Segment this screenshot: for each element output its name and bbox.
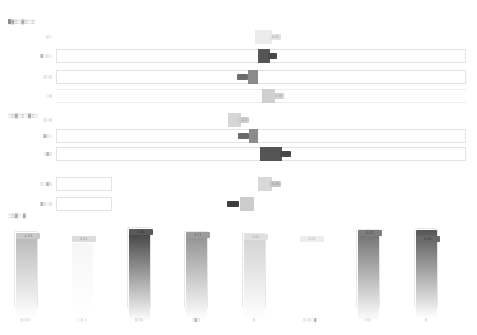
slider-value-badge: 0.03 <box>270 181 281 187</box>
vertical-bar-fill <box>129 229 150 321</box>
vertical-bar-value-badge: 0.17 <box>186 232 210 238</box>
vertical-bar-value-badge: 0.36 <box>129 229 153 235</box>
vertical-bar[interactable]: 0.17░▓▒ <box>184 0 208 335</box>
vertical-bar-fill <box>416 230 437 318</box>
vertical-bar-label: ▒░▒ <box>119 318 159 322</box>
vertical-bar-fill <box>358 231 379 321</box>
vertical-bar-label: ▒ <box>234 318 274 322</box>
vertical-bar[interactable]: 0.28▒ <box>414 0 438 335</box>
vertical-bar-fill <box>244 235 265 319</box>
vertical-bar[interactable]: 0.36▒░▒ <box>127 0 151 335</box>
vertical-bar-label: ░ ▒ ░ <box>62 318 102 322</box>
vertical-bar-value-badge: 0.22 <box>358 230 382 236</box>
vertical-bar-label: ▒ <box>406 318 446 322</box>
vertical-bar-value-badge: 0.01 <box>72 236 96 242</box>
slider-value-badge: 0.08 <box>273 93 284 99</box>
slider-value-badge: -0.05 <box>227 201 239 207</box>
vertical-bar-value-badge: 0.28 <box>416 236 440 242</box>
vertical-bar[interactable]: 0.22░▒░ <box>356 0 380 335</box>
vertical-bar[interactable]: 0.03▒░▒░▓ <box>298 0 322 335</box>
vertical-bar[interactable]: 0.01░ ▒ ░ <box>70 0 94 335</box>
vertical-bar-label: ░▓▒ <box>176 318 216 322</box>
vertical-bar[interactable]: 0.05▒ <box>242 0 266 335</box>
vertical-bar-fill <box>72 243 93 317</box>
vertical-bar-label: ▒░▒░▓ <box>290 318 330 322</box>
vertical-bar-label: ░▒░ <box>348 318 388 322</box>
vertical-bar-fill <box>16 233 37 317</box>
slider-value-badge: 0.3 <box>268 53 277 59</box>
slider-value-badge: 1.03 <box>280 151 291 157</box>
slider-value-badge: 0.05 <box>270 34 281 40</box>
vertical-bar-value-badge: 0.05 <box>244 234 268 240</box>
vertical-bar-label: ▒░▒░ <box>6 318 46 322</box>
vertical-bar[interactable]: -0.03▒░▒░ <box>14 0 38 335</box>
vertical-bar-value-badge: 0.03 <box>300 236 324 242</box>
vertical-bar-fill <box>186 233 207 319</box>
vertical-bar-value-badge: -0.03 <box>16 233 40 239</box>
